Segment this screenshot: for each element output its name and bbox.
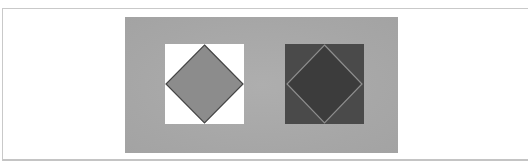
gray-panel: [125, 17, 398, 153]
figure-stage: [0, 0, 528, 168]
diamond-on-dark-icon: [285, 44, 364, 124]
diamond-on-white-icon: [165, 44, 244, 124]
dark-square: [285, 44, 364, 124]
white-square: [165, 44, 244, 124]
